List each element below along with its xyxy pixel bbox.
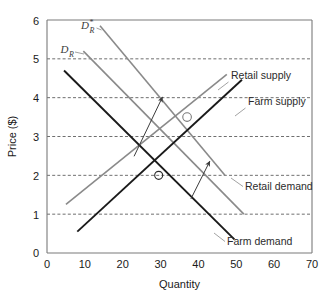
chart-figure: 6 5 4 3 2 1 0 0 10 20 30 40 50 60 70 Qua…	[0, 0, 333, 305]
d-r-star-base: D	[80, 19, 89, 31]
retail-demand-label: Retail demand	[245, 180, 313, 192]
y-tick-2: 2	[33, 170, 39, 182]
y-tick-5: 5	[33, 53, 39, 65]
y-tick-3: 3	[33, 131, 39, 143]
retail-supply-label: Retail supply	[231, 69, 292, 81]
y-tick-4: 4	[33, 92, 39, 104]
x-tick-60: 60	[268, 258, 280, 270]
d-r-subscript: R	[68, 50, 74, 59]
x-tick-50: 50	[230, 258, 242, 270]
farm-demand-label: Farm demand	[227, 235, 293, 247]
y-axis-title: Price ($)	[6, 116, 18, 158]
farm-supply-label: Farm supply	[248, 95, 307, 107]
x-tick-70: 70	[306, 258, 318, 270]
chart-canvas: 6 5 4 3 2 1 0 0 10 20 30 40 50 60 70 Qua…	[0, 0, 333, 305]
x-axis-title: Quantity	[159, 278, 200, 290]
d-r-base: D	[60, 43, 69, 55]
x-tick-0: 0	[44, 258, 50, 270]
x-tick-30: 30	[154, 258, 166, 270]
y-tick-6: 6	[33, 15, 39, 27]
x-tick-20: 20	[117, 258, 129, 270]
y-tick-1: 1	[33, 209, 39, 221]
y-tick-0: 0	[33, 247, 39, 259]
x-tick-40: 40	[192, 258, 204, 270]
d-r-star-subscript: R	[89, 26, 95, 35]
x-tick-10: 10	[79, 258, 91, 270]
